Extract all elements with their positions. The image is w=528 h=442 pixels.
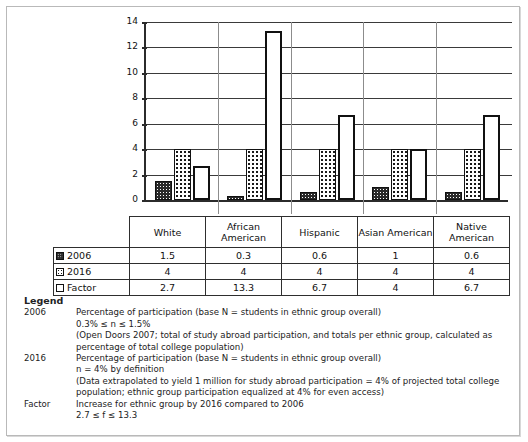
- bar-2016-african-american: [246, 149, 263, 200]
- gridline-12: [146, 47, 512, 48]
- cell-factor-1: 13.3: [206, 280, 282, 296]
- swatch-2016-icon: [56, 268, 64, 276]
- y-axis-tick-12: [142, 47, 147, 49]
- y-axis-tick-8: [142, 98, 147, 100]
- cell-2016-1: 4: [206, 264, 282, 280]
- legend-entry-factor: FactorIncrease for ethnic group by 2016 …: [24, 399, 511, 422]
- bar-chart: 02468101214: [106, 16, 510, 216]
- y-axis-tick-label-0: 0: [112, 195, 138, 204]
- cell-factor-4: 6.7: [434, 280, 510, 296]
- legend-entry-line: population; ethnic group participation e…: [76, 387, 511, 398]
- bar-2016-native-american: [464, 149, 481, 200]
- y-axis-tick-label-2: 2: [112, 170, 138, 179]
- table-header-row: WhiteAfrican AmericanHispanicAsian Ameri…: [54, 217, 510, 248]
- bar-factor-asian-american: [410, 149, 427, 200]
- legend-entries: 2006Percentage of participation (base N …: [24, 307, 511, 421]
- gridline-14: [146, 22, 512, 23]
- bar-2006-african-american: [227, 196, 244, 200]
- row-header-label: Factor: [67, 282, 96, 293]
- column-header-2: Hispanic: [282, 217, 358, 248]
- legend-entry-2016: 2016Percentage of participation (base N …: [24, 353, 511, 399]
- y-axis-tick-4: [142, 149, 147, 151]
- cell-factor-0: 2.7: [130, 280, 206, 296]
- y-axis-tick-2: [142, 175, 147, 177]
- cell-2016-3: 4: [358, 264, 434, 280]
- legend-block: Legend 2006Percentage of participation (…: [24, 295, 511, 421]
- row-header-2006: 2006: [54, 248, 130, 264]
- legend-entry-line: Percentage of participation (base N = st…: [76, 307, 511, 318]
- data-table: WhiteAfrican AmericanHispanicAsian Ameri…: [53, 216, 510, 296]
- gridline-10: [146, 73, 512, 74]
- cell-2006-4: 0.6: [434, 248, 510, 264]
- y-axis-tick-label-14: 14: [112, 17, 138, 26]
- legend-entry-line: (Data extrapolated to yield 1 million fo…: [76, 376, 511, 387]
- swatch-2006-icon: [56, 252, 64, 260]
- category-separator: [436, 22, 437, 214]
- y-axis-tick-label-4: 4: [112, 144, 138, 153]
- y-axis-tick-label-12: 12: [112, 42, 138, 51]
- row-header-label: 2006: [67, 250, 91, 261]
- legend-entry-line: (Open Doors 2007; total of study abroad …: [76, 330, 511, 341]
- legend-entry-key: Factor: [24, 399, 72, 410]
- y-axis-tick-0: [142, 200, 147, 202]
- plot-area: 02468101214: [144, 22, 508, 202]
- swatch-factor-icon: [56, 284, 64, 292]
- gridline-6: [146, 124, 512, 125]
- legend-entry-key: 2016: [24, 353, 72, 364]
- row-header-2016: 2016: [54, 264, 130, 280]
- bar-2006-native-american: [445, 192, 462, 200]
- bar-2016-hispanic: [319, 149, 336, 200]
- cell-2006-2: 0.6: [282, 248, 358, 264]
- bar-factor-african-american: [265, 31, 282, 200]
- legend-entry-line: Percentage of participation (base N = st…: [76, 353, 511, 364]
- y-axis-tick-label-10: 10: [112, 68, 138, 77]
- gridline-8: [146, 98, 512, 99]
- table-corner-cell: [54, 217, 130, 248]
- legend-entry-line: percentage of total college population): [76, 342, 511, 353]
- bar-2006-white: [155, 181, 172, 200]
- row-header-label: 2016: [67, 266, 91, 277]
- cell-2006-0: 1.5: [130, 248, 206, 264]
- category-separator: [363, 22, 364, 214]
- cell-factor-2: 6.7: [282, 280, 358, 296]
- column-header-0: White: [130, 217, 206, 248]
- column-header-1: African American: [206, 217, 282, 248]
- cell-2016-0: 4: [130, 264, 206, 280]
- legend-entry-line: 0.3% ≤ n ≤ 1.5%: [76, 319, 511, 330]
- table-row: 20061.50.30.610.6: [54, 248, 510, 264]
- y-axis-tick-14: [142, 22, 147, 24]
- bar-2016-asian-american: [391, 149, 408, 200]
- legend-title: Legend: [24, 295, 511, 306]
- table-row: 201644444: [54, 264, 510, 280]
- y-axis-tick-6: [142, 124, 147, 126]
- category-separator: [291, 22, 292, 214]
- bar-2006-hispanic: [300, 192, 317, 200]
- cell-2016-4: 4: [434, 264, 510, 280]
- bar-factor-hispanic: [338, 115, 355, 200]
- bar-factor-white: [193, 166, 210, 200]
- table-body: WhiteAfrican AmericanHispanicAsian Ameri…: [54, 217, 510, 296]
- legend-entry-line: 2.7 ≤ f ≤ 13.3: [76, 410, 511, 421]
- legend-entry-key: 2006: [24, 307, 72, 318]
- bar-factor-native-american: [483, 115, 500, 200]
- bar-2006-asian-american: [372, 187, 389, 200]
- bar-2016-white: [174, 149, 191, 200]
- table-row: Factor2.713.36.746.7: [54, 280, 510, 296]
- row-header-factor: Factor: [54, 280, 130, 296]
- cell-factor-3: 4: [358, 280, 434, 296]
- legend-entry-2006: 2006Percentage of participation (base N …: [24, 307, 511, 353]
- cell-2006-1: 0.3: [206, 248, 282, 264]
- y-axis-tick-10: [142, 73, 147, 75]
- column-header-3: Asian American: [358, 217, 434, 248]
- figure-frame: 02468101214 WhiteAfrican AmericanHispani…: [6, 6, 520, 436]
- y-axis-tick-label-6: 6: [112, 119, 138, 128]
- category-separator: [218, 22, 219, 214]
- y-axis-tick-label-8: 8: [112, 93, 138, 102]
- column-header-4: Native American: [434, 217, 510, 248]
- legend-entry-line: n = 4% by definition: [76, 364, 511, 375]
- cell-2016-2: 4: [282, 264, 358, 280]
- legend-entry-line: Increase for ethnic group by 2016 compar…: [76, 399, 511, 410]
- cell-2006-3: 1: [358, 248, 434, 264]
